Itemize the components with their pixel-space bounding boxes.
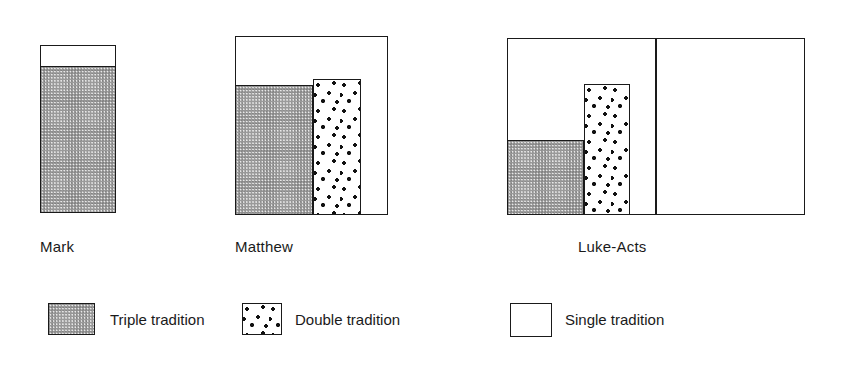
legend-swatch-triple-icon: [48, 303, 95, 335]
legend-label-single: Single tradition: [565, 311, 664, 329]
legend-label-double: Double tradition: [295, 311, 400, 329]
legend-swatch-single-icon: [510, 303, 552, 337]
legend-label-triple: Triple tradition: [110, 311, 204, 329]
legend-swatch-double-icon: [242, 303, 282, 335]
legend: Triple tradition Double tradition Single…: [0, 0, 842, 374]
